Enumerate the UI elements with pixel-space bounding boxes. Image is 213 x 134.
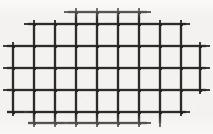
grid-junction (75, 23, 78, 26)
grid-junction (117, 111, 120, 114)
grid-junction (96, 111, 99, 114)
grid-junction (138, 122, 141, 125)
grid-junction (180, 67, 183, 70)
grid-junction (54, 122, 57, 125)
grid-junction (33, 45, 36, 48)
grid-junction (159, 45, 162, 48)
grid-junction (180, 89, 183, 92)
mesh-grid-figure (0, 0, 213, 134)
grid-junction (138, 23, 141, 26)
grid-junction (138, 45, 141, 48)
grid-junction (159, 23, 162, 26)
grid-junction (138, 11, 141, 14)
grid-junction (54, 45, 57, 48)
grid-junction (180, 23, 183, 26)
grid-junction (96, 67, 99, 70)
grid-junction (117, 45, 120, 48)
grid-junction (75, 45, 78, 48)
grid-junction (33, 89, 36, 92)
grid-junction (117, 11, 120, 14)
grid-junction (96, 89, 99, 92)
grid-junction (180, 111, 183, 114)
grid-junction (33, 23, 36, 26)
grid-junction (96, 23, 99, 26)
grid-junction (199, 67, 202, 70)
grid-junction (138, 67, 141, 70)
grid-junction (54, 67, 57, 70)
grid-junction (159, 67, 162, 70)
mesh-grid-canvas (0, 0, 213, 134)
grid-junction (12, 67, 15, 70)
grid-junction (117, 89, 120, 92)
grid-junction (159, 89, 162, 92)
grid-junction (159, 111, 162, 114)
grid-junction (180, 45, 183, 48)
grid-junction (33, 111, 36, 114)
grid-junction (75, 89, 78, 92)
grid-junction (117, 122, 120, 125)
grid-junction (12, 45, 15, 48)
grid-junction (33, 67, 36, 70)
grid-junction (96, 45, 99, 48)
grid-junction (75, 111, 78, 114)
grid-junction (138, 111, 141, 114)
grid-junction (199, 45, 202, 48)
grid-junction (54, 23, 57, 26)
grid-junction (75, 122, 78, 125)
grid-junction (199, 89, 202, 92)
grid-junction (54, 89, 57, 92)
grid-junction (33, 122, 36, 125)
grid-junction (96, 11, 99, 14)
grid-junction (117, 67, 120, 70)
grid-junction (12, 111, 15, 114)
grid-junction (12, 89, 15, 92)
grid-junction (75, 67, 78, 70)
grid-junction (117, 23, 120, 26)
grid-junction (138, 89, 141, 92)
grid-junction (54, 111, 57, 114)
grid-junction (75, 11, 78, 14)
grid-junction (96, 122, 99, 125)
